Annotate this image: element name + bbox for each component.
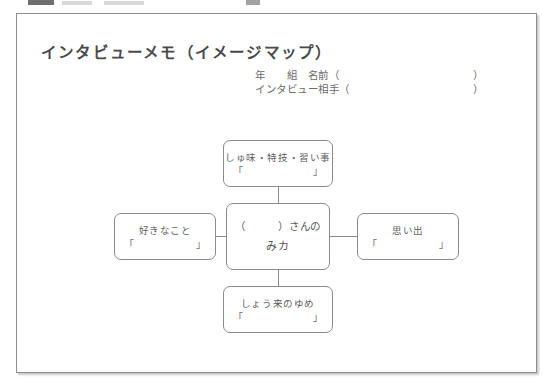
node-dream-label: しょう来のゆめ <box>224 296 332 310</box>
node-dream-quote-close: 」 <box>313 309 323 324</box>
node-center-line1: （ ）さんの <box>227 218 329 233</box>
node-center[interactable]: （ ）さんの みカ <box>226 203 330 270</box>
toolbar-ghost-label <box>62 1 92 5</box>
node-memory[interactable]: 思い出 「 」 <box>357 213 459 260</box>
toolbar-ghost-label <box>104 1 144 5</box>
toolbar-chip-icon <box>28 0 54 5</box>
node-likes[interactable]: 好きなこと 「 」 <box>114 213 216 260</box>
node-memory-quote-close: 」 <box>439 236 449 251</box>
node-hobby[interactable]: しゅ味・特技・習い事 「 」 <box>223 140 333 187</box>
connector-center-to-dream <box>278 270 279 287</box>
node-likes-label: 好きなこと <box>115 223 215 237</box>
connector-center-to-memory <box>330 236 358 237</box>
node-dream-quote-open: 「 <box>233 309 243 324</box>
node-memory-label: 思い出 <box>358 223 458 237</box>
node-dream[interactable]: しょう来のゆめ 「 」 <box>223 286 333 333</box>
node-center-line2: みカ <box>227 237 329 253</box>
connector-center-to-hobby <box>278 187 279 204</box>
node-hobby-quote-open: 「 <box>233 163 243 178</box>
image-map-diagram: しゅ味・特技・習い事 「 」 好きなこと 「 」 思い出 「 」 しょう来のゆめ… <box>17 14 538 374</box>
worksheet-page: インタビューメモ（イメージマップ） 年 組 名前（ ） インタビュー相手（ ） … <box>16 13 537 373</box>
node-likes-quote-close: 」 <box>196 236 206 251</box>
toolbar-chip-icon <box>246 0 260 5</box>
node-likes-quote-open: 「 <box>124 236 134 251</box>
node-memory-quote-open: 「 <box>367 236 377 251</box>
node-hobby-label: しゅ味・特技・習い事 <box>224 150 332 164</box>
cut-off-toolbar-strip <box>0 0 554 9</box>
node-hobby-quote-close: 」 <box>313 163 323 178</box>
